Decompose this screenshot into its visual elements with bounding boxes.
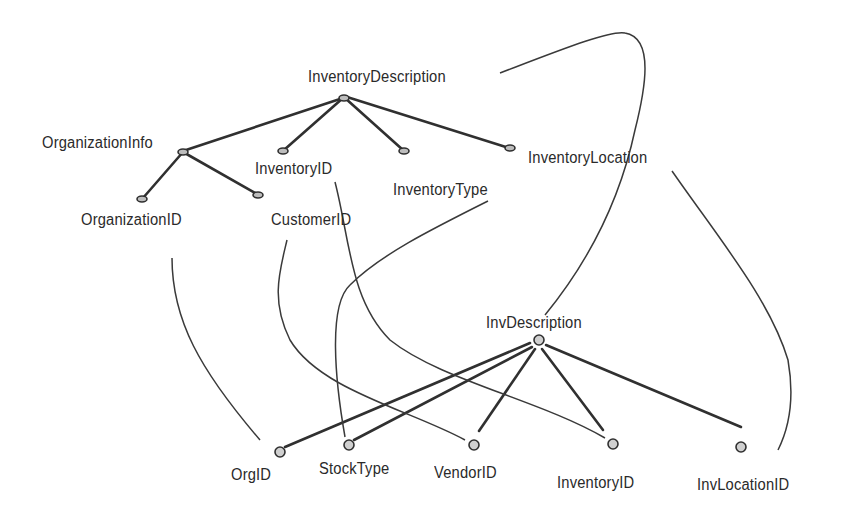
edge-invdesc-orginfo [183,98,343,151]
node-stocktype[interactable] [344,440,354,450]
label-vendorid: VendorID [434,464,497,482]
node-orgid[interactable] [275,447,285,457]
node-invdescription[interactable] [534,335,544,345]
label-inventorydescription: InventoryDescription [308,68,446,86]
node-inventorytype[interactable] [399,148,409,154]
label-inventoryid-tgt: InventoryID [557,474,634,492]
edge-orginfo-organizationid [143,152,183,198]
edge-invdesc-inventoryid [542,349,603,430]
label-organizationid: OrganizationID [81,211,182,229]
match-inventorydescription-invdescription[interactable] [500,33,645,315]
node-inventorylocation[interactable] [505,145,515,151]
edge-invdesc-orgid [285,343,530,447]
node-inventoryid-src[interactable] [278,148,288,154]
match-inventorytype-stocktype[interactable] [335,201,488,437]
label-inventorylocation: InventoryLocation [528,149,647,167]
label-organizationinfo: OrganizationInfo [42,134,153,152]
target-tree-edges [285,343,741,447]
node-vendorid[interactable] [469,440,479,450]
node-inventoryid-tgt[interactable] [608,439,618,449]
match-inventorylocation-invlocationid[interactable] [672,171,791,450]
label-inventorytype: InventoryType [393,181,488,199]
node-organizationinfo[interactable] [178,149,188,155]
node-organizationid[interactable] [137,196,147,202]
node-customerid[interactable] [253,192,263,198]
edge-invdesc-invlocationid [546,345,741,427]
node-inventorydescription[interactable] [339,95,349,101]
label-invdescription: InvDescription [486,314,582,332]
match-organizationid-orgid[interactable] [172,258,260,440]
correspondence-lines [172,33,791,450]
label-invlocationid: InvLocationID [697,476,789,494]
label-stocktype: StockType [319,460,389,478]
label-customerid: CustomerID [271,211,351,229]
edge-orginfo-customerid [183,152,257,194]
node-invlocationid[interactable] [736,442,746,452]
label-inventoryid-src: InventoryID [255,160,332,178]
edge-invdesc-inventoryid [284,98,343,150]
label-orgid: OrgID [231,466,271,484]
match-inventoryid-inventoryid[interactable] [335,182,605,438]
